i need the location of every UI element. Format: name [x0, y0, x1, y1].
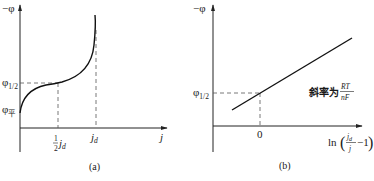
- panel-b-y-axis-label: −φ: [193, 2, 206, 14]
- panel-a-phi-half-label: φ1/2: [2, 76, 18, 91]
- svg-text:斜率为: 斜率为: [308, 86, 339, 98]
- panel-a-x-axis-label: j: [158, 131, 163, 143]
- svg-text:jd: jd: [346, 132, 353, 142]
- panel-a-caption: (a): [89, 161, 100, 173]
- panel-a-y-axis-label: −φ: [2, 2, 15, 14]
- svg-text:−1: −1: [357, 136, 369, 148]
- svg-text:j: j: [348, 144, 351, 153]
- panel-b-linear-plot: [232, 38, 352, 110]
- svg-text:RT: RT: [340, 82, 351, 91]
- panel-a-jd-label: jd: [89, 131, 98, 145]
- svg-text:nF: nF: [341, 93, 350, 102]
- panel-a-phi-eq-label: φ平: [2, 103, 16, 118]
- panel-b: −φ φ1/2 0 斜率为 RT nF ln ( jd j −1 ) (b): [193, 2, 373, 172]
- panel-b-zero-label: 0: [257, 128, 263, 140]
- panel-b-slope-label: 斜率为 RT nF: [308, 82, 354, 102]
- svg-text:2: 2: [54, 144, 58, 153]
- svg-text:ln: ln: [328, 136, 337, 148]
- svg-text:1: 1: [54, 134, 58, 143]
- panel-b-caption: (b): [279, 160, 291, 172]
- svg-text:): ): [368, 134, 373, 152]
- svg-text:jd: jd: [57, 137, 66, 151]
- polarization-figure: −φ φ1/2 φ平 1 2 jd jd j (a) −φ φ1/2: [0, 0, 374, 181]
- panel-a-half-jd-label: 1 2 jd: [53, 134, 66, 153]
- svg-text:(: (: [340, 134, 345, 152]
- panel-b-x-axis-label: ln ( jd j −1 ): [328, 132, 373, 153]
- panel-a: −φ φ1/2 φ平 1 2 jd jd j (a): [2, 2, 167, 173]
- panel-b-phi-half-label: φ1/2: [193, 86, 209, 101]
